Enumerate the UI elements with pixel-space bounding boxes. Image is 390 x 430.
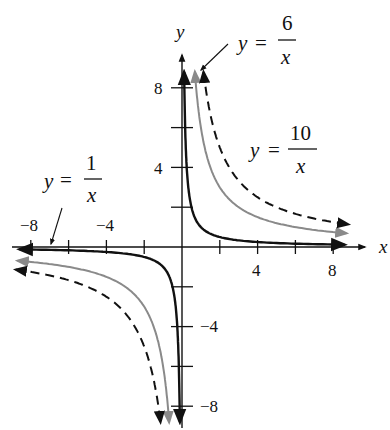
curve-y-6-x-negative-branch xyxy=(18,261,170,422)
y-axis-label: y xyxy=(174,21,185,42)
pointer-arrow-6-over-x xyxy=(201,44,228,70)
svg-text:=: = xyxy=(268,138,280,162)
svg-text:=: = xyxy=(255,31,267,55)
label-y-equals-10-over-x: y = 10 x xyxy=(248,121,317,178)
axes xyxy=(12,55,365,428)
x-tick-label-neg4: −4 xyxy=(96,216,115,235)
curve-y-10-x-negative-branch xyxy=(16,270,161,423)
svg-text:=: = xyxy=(60,168,72,192)
x-tick-label-8: 8 xyxy=(328,261,337,280)
svg-text:x: x xyxy=(280,45,291,69)
svg-text:1: 1 xyxy=(86,151,97,175)
label-y-equals-1-over-x: y = 1 x xyxy=(42,151,102,244)
x-tick-label-4: 4 xyxy=(252,261,261,280)
svg-text:x: x xyxy=(86,183,97,207)
svg-text:10: 10 xyxy=(290,121,311,145)
svg-text:x: x xyxy=(295,154,306,178)
hyperbola-chart: −8 −4 4 8 8 4 −4 −8 x y y = 1 x y = 6 x … xyxy=(0,0,390,430)
label-y-equals-6-over-x: y = 6 x xyxy=(201,11,296,70)
svg-text:y: y xyxy=(42,169,54,193)
svg-text:6: 6 xyxy=(282,11,293,35)
y-tick-label-neg8: −8 xyxy=(200,397,218,416)
y-tick-label-4: 4 xyxy=(154,159,163,178)
y-tick-label-neg4: −4 xyxy=(200,317,219,336)
y-tick-label-8: 8 xyxy=(154,79,163,98)
x-tick-label-neg8: −8 xyxy=(20,216,38,235)
x-axis-label: x xyxy=(378,236,388,257)
pointer-arrow-1-over-x xyxy=(51,208,62,244)
svg-text:y: y xyxy=(236,31,248,55)
svg-text:y: y xyxy=(248,138,260,162)
